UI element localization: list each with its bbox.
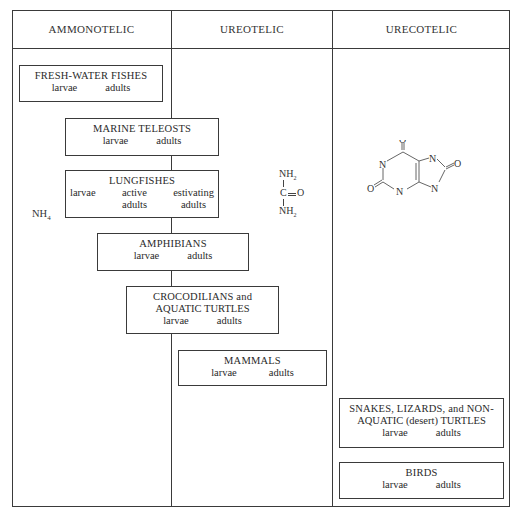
stage-label: adults bbox=[436, 479, 461, 491]
box-amphibians: AMPHIBIANS larvaeadults bbox=[97, 233, 249, 271]
svg-text:N: N bbox=[429, 153, 436, 164]
connector-line bbox=[171, 101, 172, 118]
stage-label: larvae bbox=[382, 427, 408, 439]
header-ureotelic: UREOTELIC bbox=[172, 10, 332, 48]
urea-structure: NH2 C O NH2 bbox=[276, 168, 316, 220]
stage-label: adults bbox=[105, 82, 130, 94]
box-title: SNAKES, LIZARDS, and NON- bbox=[340, 403, 503, 415]
column-divider-2 bbox=[332, 10, 333, 507]
svg-text:O: O bbox=[399, 140, 406, 145]
stage-label: larvae bbox=[211, 367, 237, 379]
svg-text:N: N bbox=[379, 159, 386, 170]
stage-label: estivating bbox=[173, 187, 214, 199]
box-title: FRESH-WATER FISHES bbox=[20, 70, 162, 82]
connector-line bbox=[171, 155, 172, 170]
connector-line bbox=[171, 217, 172, 233]
connector-line bbox=[171, 270, 172, 286]
svg-text:O: O bbox=[454, 158, 461, 169]
box-title: AMPHIBIANS bbox=[98, 238, 248, 250]
header-divider bbox=[12, 48, 510, 49]
stage-label: adults bbox=[122, 199, 147, 211]
box-title: MARINE TELEOSTS bbox=[66, 123, 218, 135]
header-ammonotelic: AMMONOTELIC bbox=[12, 10, 171, 48]
box-fresh-water-fishes: FRESH-WATER FISHES larvaeadults bbox=[19, 65, 163, 102]
stage-label: adults bbox=[187, 250, 212, 262]
svg-text:O: O bbox=[367, 183, 374, 194]
box-title-line2: AQUATIC (desert) TURTLES bbox=[340, 415, 503, 427]
stage-label: adults bbox=[156, 135, 181, 147]
stage-label: larvae bbox=[52, 82, 78, 94]
box-title-line2: AQUATIC TURTLES bbox=[127, 303, 278, 315]
uric-acid-structure: O N O N N O N bbox=[365, 140, 470, 210]
box-crocodilians-aquatic-turtles: CROCODILIANS and AQUATIC TURTLES larvaea… bbox=[126, 286, 279, 334]
box-lungfishes: LUNGFISHES larvae active estivating adul… bbox=[65, 170, 219, 218]
box-title: BIRDS bbox=[340, 467, 503, 479]
box-title: MAMMALS bbox=[179, 355, 326, 367]
stage-label: larvae bbox=[103, 135, 129, 147]
box-marine-teleosts: MARINE TELEOSTS larvaeadults bbox=[65, 118, 219, 156]
svg-text:N: N bbox=[431, 183, 438, 194]
stage-label: adults bbox=[181, 199, 214, 211]
stage-label: adults bbox=[217, 315, 242, 327]
box-title: LUNGFISHES bbox=[66, 175, 218, 187]
stage-label: adults bbox=[269, 367, 294, 379]
box-mammals: MAMMALS larvaeadults bbox=[178, 350, 327, 386]
stage-label: active bbox=[122, 187, 147, 199]
header-urecotelic: URECOTELIC bbox=[333, 10, 510, 48]
ammonia-formula: NH4 bbox=[32, 208, 51, 222]
box-birds: BIRDS larvaeadults bbox=[339, 462, 504, 499]
stage-label: larvae bbox=[382, 479, 408, 491]
stage-label: larvae bbox=[163, 315, 189, 327]
svg-text:N: N bbox=[396, 186, 403, 197]
box-title: CROCODILIANS and bbox=[127, 291, 278, 303]
box-snakes-lizards-turtles: SNAKES, LIZARDS, and NON- AQUATIC (deser… bbox=[339, 398, 504, 448]
stage-label: larvae bbox=[134, 250, 160, 262]
stage-label: larvae bbox=[70, 187, 96, 199]
stage-label: adults bbox=[436, 427, 461, 439]
